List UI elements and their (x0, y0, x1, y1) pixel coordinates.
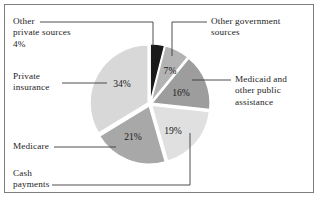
slice-value-34: 34% (113, 78, 131, 89)
label-other-private-sources: Other private sources 4% (13, 16, 71, 50)
label-private-insurance: Private insurance (13, 71, 50, 94)
slice-value-7: 7% (164, 65, 177, 76)
label-medicare-line1: Medicare (13, 141, 49, 152)
slice-value-21: 21% (124, 131, 142, 142)
label-other-government-sources-line2: sources (211, 27, 281, 38)
label-other-private-sources-line3: 4% (13, 39, 71, 50)
label-medicaid-line1: Medicaid and (235, 74, 287, 85)
label-medicare: Medicare (13, 141, 49, 152)
pie-chart-figure: 7% 16% 19% 21% 34% Other private sources… (0, 0, 318, 204)
label-medicaid: Medicaid and other public assistance (235, 74, 287, 108)
label-private-insurance-line2: insurance (13, 82, 50, 93)
slice-value-19: 19% (164, 125, 182, 136)
label-other-private-sources-line1: Other (13, 16, 71, 27)
label-other-government-sources-line1: Other government (211, 16, 281, 27)
label-cash-payments: Cash payments (13, 168, 49, 191)
label-other-government-sources: Other government sources (211, 16, 281, 39)
pie-slices (90, 44, 210, 164)
label-other-private-sources-line2: private sources (13, 27, 71, 38)
label-cash-payments-line2: payments (13, 179, 49, 190)
slice-value-16: 16% (172, 87, 190, 98)
label-private-insurance-line1: Private (13, 71, 50, 82)
label-cash-payments-line1: Cash (13, 168, 49, 179)
label-medicaid-line2: other public (235, 85, 287, 96)
label-medicaid-line3: assistance (235, 97, 287, 108)
